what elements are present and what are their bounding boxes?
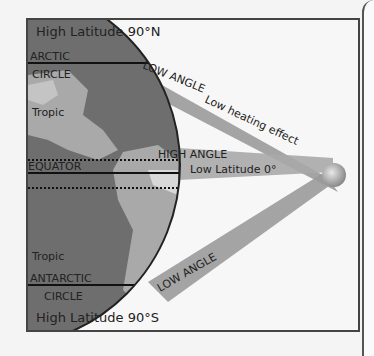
diagram-frame: High Latitude 90°N ARCTIC CIRCLE Tropic … xyxy=(26,18,360,332)
label-antarctic: ANTARCTIC xyxy=(30,272,92,285)
label-tropic-north: Tropic xyxy=(31,106,64,119)
sun-icon xyxy=(322,163,346,187)
page-edge xyxy=(362,0,374,356)
label-arctic: ARCTIC xyxy=(30,50,70,63)
label-high-angle: HIGH ANGLE xyxy=(158,148,227,161)
label-equator: EQUATOR xyxy=(28,160,82,173)
label-arctic-circle: CIRCLE xyxy=(32,68,71,81)
label-antarctic-circle: CIRCLE xyxy=(44,290,83,303)
label-tropic-south: Tropic xyxy=(31,250,64,263)
label-low-latitude: Low Latitude 0° xyxy=(190,163,276,176)
title-bottom: High Latitude 90°S xyxy=(36,310,159,325)
sun-angle-diagram: High Latitude 90°N ARCTIC CIRCLE Tropic … xyxy=(28,20,358,330)
title-top: High Latitude 90°N xyxy=(36,24,160,39)
